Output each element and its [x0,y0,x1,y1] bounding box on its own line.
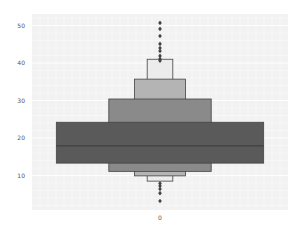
x-axis-ticks: 0 [158,214,162,221]
x-tick-label: 0 [158,214,162,221]
y-tick-label: 40 [17,59,25,66]
y-tick-label: 30 [17,97,25,104]
y-tick-label: 20 [17,134,25,141]
y-axis-ticks: 1020304050 [17,22,25,179]
boxen-level-1 [56,122,263,163]
y-tick-label: 50 [17,22,25,29]
y-tick-label: 10 [17,172,25,179]
boxen-plot: 1020304050 0 [0,0,303,235]
